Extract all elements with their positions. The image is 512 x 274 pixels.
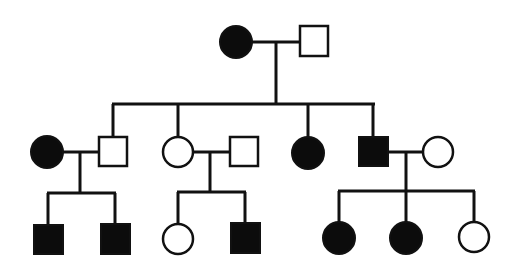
generation-3 (34, 222, 489, 254)
individual-II-2-unaffected-male (99, 137, 127, 166)
individual-II-6-affected-male (359, 137, 388, 166)
individual-III-6-affected-female (390, 222, 422, 254)
individual-III-2-affected-male (101, 224, 130, 254)
individual-III-3-unaffected-female (163, 224, 193, 254)
individual-III-7-unaffected-female (459, 222, 489, 252)
individual-III-1-affected-male (34, 225, 63, 254)
individual-II-3-unaffected-female (163, 137, 193, 167)
generation-2 (31, 136, 453, 193)
individual-III-4-affected-male (231, 223, 260, 253)
individual-III-5-affected-female (323, 222, 355, 254)
individual-II-5-affected-female (292, 137, 324, 169)
sibship-III (47, 191, 475, 225)
individual-I-1-affected-female (220, 26, 252, 58)
individual-II-1-affected-female (31, 136, 63, 168)
individual-II-7-unaffected-female (423, 137, 453, 167)
individual-II-4-unaffected-male (230, 137, 258, 166)
generation-1 (220, 26, 328, 104)
pedigree-chart (0, 0, 512, 274)
individual-I-2-unaffected-male (300, 26, 328, 56)
sibship-II (112, 104, 375, 137)
